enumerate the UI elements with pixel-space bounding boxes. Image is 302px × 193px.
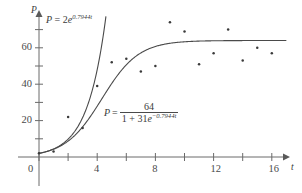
exponential-lhs: P bbox=[46, 14, 52, 25]
logistic-denominator-exponent: −0.7944t bbox=[152, 112, 176, 119]
x-axis-label: t bbox=[291, 163, 294, 173]
exponential-curve bbox=[39, 16, 106, 153]
y-tick-label: 40 bbox=[22, 79, 33, 90]
exponential-equals: = bbox=[55, 14, 61, 25]
exponential-base: 2e bbox=[63, 14, 72, 25]
logistic-equation-label: P = 64 1 + 31e−0.7944t bbox=[104, 102, 178, 124]
exponential-exponent: 0.7944t bbox=[72, 13, 92, 20]
logistic-numerator: 64 bbox=[120, 102, 179, 112]
data-point bbox=[183, 30, 186, 32]
data-point bbox=[271, 52, 274, 55]
data-point bbox=[111, 61, 114, 64]
y-tick-label: 20 bbox=[22, 115, 33, 126]
data-point bbox=[227, 28, 230, 31]
logistic-equals: = bbox=[112, 108, 118, 118]
data-point bbox=[67, 116, 70, 119]
plot-svg bbox=[0, 0, 302, 193]
x-axis-arrowhead bbox=[283, 154, 290, 161]
x-tick-label: 8 bbox=[152, 164, 157, 175]
data-point bbox=[241, 59, 244, 62]
data-point bbox=[169, 21, 172, 24]
logistic-lhs: P bbox=[104, 108, 110, 118]
logistic-denominator: 1 + 31e−0.7944t bbox=[120, 112, 179, 124]
curves-group bbox=[39, 16, 286, 153]
data-point bbox=[81, 127, 84, 130]
data-point bbox=[52, 150, 55, 153]
data-point bbox=[125, 57, 128, 60]
figure-canvas: P t 4812160 204060 P = 2e0.7944t P = 64 … bbox=[0, 0, 302, 193]
x-tick-label: 12 bbox=[210, 164, 221, 175]
data-point bbox=[154, 65, 157, 68]
logistic-curve bbox=[39, 41, 286, 154]
data-point bbox=[198, 63, 201, 66]
data-point bbox=[38, 152, 41, 155]
x-tick-label: 4 bbox=[94, 164, 99, 175]
data-point bbox=[212, 52, 215, 55]
y-tick-label: 60 bbox=[22, 42, 33, 53]
data-point bbox=[96, 85, 99, 88]
origin-label: 0 bbox=[28, 164, 33, 175]
data-point bbox=[140, 70, 143, 73]
logistic-denominator-lead: 1 + 31e bbox=[122, 113, 152, 124]
logistic-fraction: 64 1 + 31e−0.7944t bbox=[120, 102, 179, 124]
axes-group bbox=[18, 10, 290, 186]
y-axis-label: P bbox=[31, 6, 37, 16]
x-tick-label: 16 bbox=[269, 164, 280, 175]
data-point bbox=[256, 47, 259, 50]
exponential-equation-label: P = 2e0.7944t bbox=[46, 14, 92, 25]
